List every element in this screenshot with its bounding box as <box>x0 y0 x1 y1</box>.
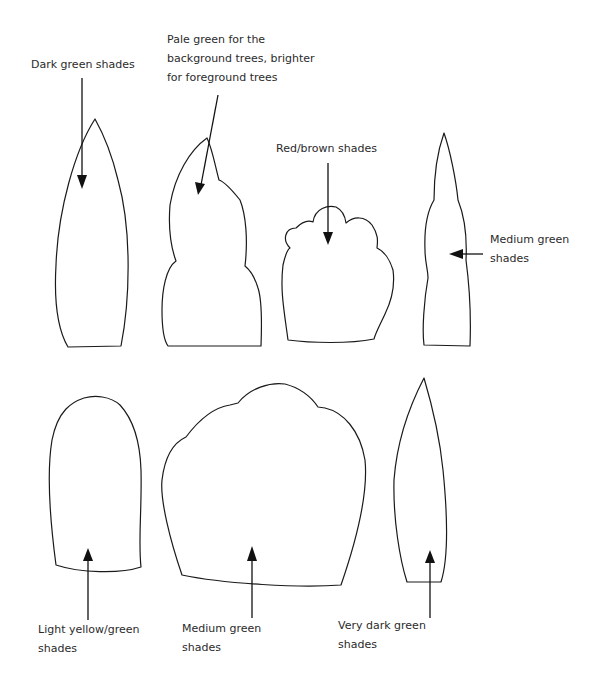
label-very-dark-green: Very dark green shades <box>338 616 426 654</box>
arrow-light-yellow-green <box>83 548 93 620</box>
label-light-yellow-green: Light yellow/green shades <box>38 620 140 658</box>
narrow-spire-tree-shape <box>423 133 470 346</box>
slim-flame-tree-shape <box>394 378 447 582</box>
arrow-dark-green <box>77 78 87 189</box>
wide-bushy-tree-shape <box>162 384 366 586</box>
arrow-very-dark-green <box>425 550 435 618</box>
tree-shapes-diagram <box>0 0 599 683</box>
label-medium-green-bottom: Medium green shades <box>182 619 261 657</box>
rounded-dome-tree-shape <box>49 396 141 571</box>
label-red-brown: Red/brown shades <box>276 139 377 158</box>
arrow-red-brown <box>323 163 333 245</box>
cloud-top-tree-shape <box>282 206 394 342</box>
arrow-medium-green-bottom <box>247 546 257 618</box>
stacked-bumpy-tree-shape <box>162 138 262 346</box>
label-medium-green-top: Medium green shades <box>490 230 569 268</box>
tall-pointed-tree-shape <box>56 119 129 347</box>
label-dark-green: Dark green shades <box>31 55 135 74</box>
label-pale-green: Pale green for the background trees, bri… <box>167 30 315 87</box>
